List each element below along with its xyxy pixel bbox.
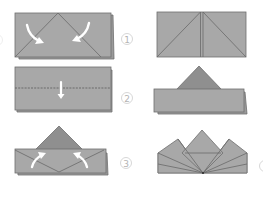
step-number-label: 2: [124, 94, 130, 104]
step-3-left-panel: [15, 126, 108, 175]
paper-rectangle: [157, 12, 246, 57]
step-1-left-panel: [15, 13, 114, 59]
step-number-partial-left: [0, 35, 3, 46]
paper-band: [15, 149, 106, 173]
crown-center-point: [202, 172, 204, 174]
step-2-right-panel: [154, 66, 247, 114]
step-2-left-panel: [15, 67, 112, 112]
step-number-3: 3: [121, 158, 132, 169]
paper-triangle: [176, 66, 222, 90]
step-number-partial: [260, 161, 264, 172]
step-number-label: 3: [123, 159, 129, 169]
step-number-2: 2: [122, 93, 133, 104]
paper-rectangle: [15, 13, 111, 57]
step-number-circle: [0, 35, 3, 46]
step-number-label: 1: [124, 35, 130, 45]
paper-triangle: [35, 126, 83, 150]
step-1-right-panel: [157, 12, 246, 57]
step-number-1: 1: [122, 34, 133, 45]
paper-rectangle: [15, 67, 111, 110]
step-3-right-panel: [158, 130, 247, 174]
origami-fold-diagram: 1 2 3: [0, 0, 263, 199]
paper-band: [154, 89, 244, 112]
step-number-circle: [260, 161, 264, 172]
